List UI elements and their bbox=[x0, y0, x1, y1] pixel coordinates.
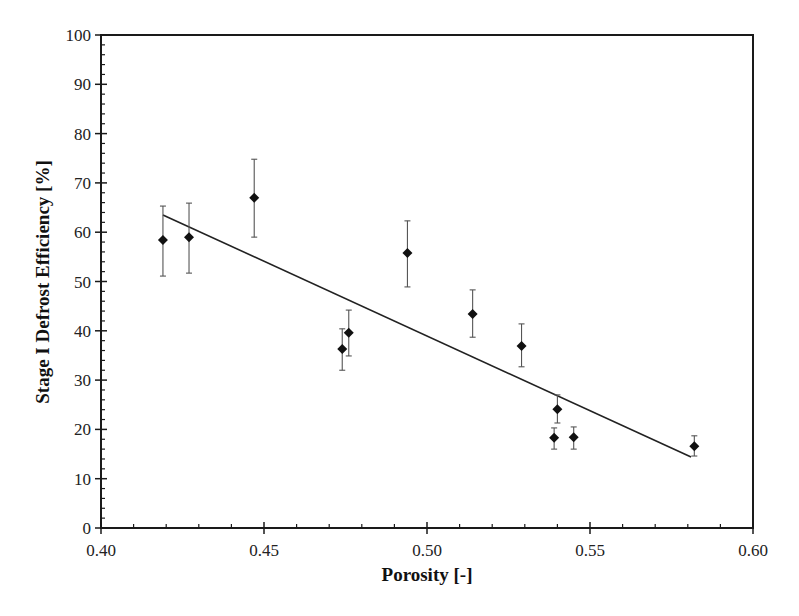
diamond-marker-icon bbox=[402, 248, 412, 258]
diamond-marker-icon bbox=[552, 404, 562, 414]
y-tick-label: 20 bbox=[74, 420, 91, 439]
diamond-marker-icon bbox=[158, 235, 168, 245]
x-tick-label: 0.40 bbox=[86, 541, 116, 560]
data-point bbox=[569, 427, 579, 449]
data-point bbox=[517, 324, 527, 367]
x-axis-title: Porosity [-] bbox=[382, 564, 473, 585]
diamond-marker-icon bbox=[569, 432, 579, 442]
trendline bbox=[163, 215, 691, 457]
data-point bbox=[549, 428, 559, 449]
data-point bbox=[468, 290, 478, 337]
data-point bbox=[337, 329, 347, 370]
y-tick-label: 50 bbox=[74, 273, 91, 292]
y-tick-label: 80 bbox=[74, 125, 91, 144]
data-point bbox=[184, 203, 194, 273]
data-point bbox=[689, 436, 699, 456]
y-tick-label: 10 bbox=[74, 470, 91, 489]
diamond-marker-icon bbox=[689, 441, 699, 451]
plot-frame bbox=[101, 35, 753, 528]
y-tick-label: 100 bbox=[66, 26, 92, 45]
trendline-path bbox=[163, 215, 691, 457]
diamond-marker-icon bbox=[549, 433, 559, 443]
x-tick-label: 0.50 bbox=[412, 541, 442, 560]
y-axis-title: Stage I Defrost Efficiency [%] bbox=[32, 160, 53, 403]
scatter-chart: 0102030405060708090100 0.400.450.500.550… bbox=[0, 0, 799, 616]
diamond-marker-icon bbox=[184, 232, 194, 242]
y-tick-label: 70 bbox=[74, 174, 91, 193]
diamond-marker-icon bbox=[344, 328, 354, 338]
diamond-marker-icon bbox=[517, 341, 527, 351]
diamond-marker-icon bbox=[249, 193, 259, 203]
y-tick-label: 90 bbox=[74, 75, 91, 94]
data-point bbox=[402, 221, 412, 287]
y-tick-label: 40 bbox=[74, 322, 91, 341]
y-tick-label: 30 bbox=[74, 371, 91, 390]
x-tick-label: 0.45 bbox=[249, 541, 279, 560]
y-tick-label: 0 bbox=[83, 519, 92, 538]
diamond-marker-icon bbox=[468, 309, 478, 319]
diamond-marker-icon bbox=[337, 344, 347, 354]
plot-border bbox=[101, 35, 753, 528]
data-series bbox=[158, 159, 699, 456]
x-tick-label: 0.60 bbox=[738, 541, 768, 560]
data-point bbox=[249, 159, 259, 237]
x-tick-label: 0.55 bbox=[575, 541, 605, 560]
y-tick-label: 60 bbox=[74, 223, 91, 242]
data-point bbox=[552, 395, 562, 423]
